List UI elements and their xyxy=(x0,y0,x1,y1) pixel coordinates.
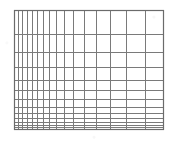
vertical-gridlines-group xyxy=(19,10,146,129)
horizontal-gridlines-group xyxy=(14,35,163,128)
log-log-grid xyxy=(0,0,171,143)
graph-paper-figure xyxy=(0,0,171,143)
plot-area-border xyxy=(15,11,164,130)
